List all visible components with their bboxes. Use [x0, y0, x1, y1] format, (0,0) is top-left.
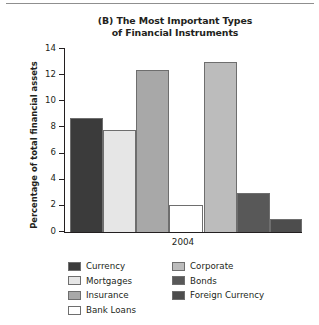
legend-label: Bonds — [190, 276, 217, 286]
bar-currency — [70, 118, 103, 232]
legend-swatch-icon — [172, 276, 185, 285]
chart-title-line1: (B) The Most Important Types — [98, 15, 252, 26]
y-tick-mark — [59, 126, 65, 127]
y-tick-mark — [59, 231, 65, 232]
y-axis-title: Percentage of total financial assets — [29, 55, 39, 235]
legend-item-bank-loans[interactable]: Bank Loans — [68, 303, 172, 318]
bar-corporate — [204, 62, 237, 232]
bar-bank-loans — [169, 205, 203, 232]
y-tick-10: 10 — [64, 100, 65, 101]
plot-area: 02468101214 — [64, 49, 302, 233]
y-tick-label: 14 — [45, 43, 56, 53]
y-tick-2: 2 — [64, 205, 65, 206]
bar-mortgages — [103, 130, 136, 232]
top-divider — [6, 3, 314, 4]
y-tick-mark — [59, 74, 65, 75]
y-tick-12: 12 — [64, 74, 65, 75]
y-tick-label: 4 — [51, 173, 56, 183]
chart-legend: CurrencyCorporateMortgagesBondsInsurance… — [68, 259, 300, 317]
y-tick-mark — [59, 179, 65, 180]
legend-label: Foreign Currency — [190, 290, 264, 300]
chart-figure: (B) The Most Important Types of Financia… — [0, 0, 319, 325]
y-tick-6: 6 — [64, 153, 65, 154]
chart-title-line2: of Financial Instruments — [44, 27, 306, 39]
y-tick-0: 0 — [64, 231, 65, 232]
legend-swatch-icon — [68, 262, 81, 271]
y-tick-label: 2 — [51, 199, 56, 209]
legend-swatch-icon — [68, 291, 81, 300]
y-tick-label: 0 — [51, 226, 56, 236]
legend-item-mortgages[interactable]: Mortgages — [68, 274, 172, 289]
legend-item-bonds[interactable]: Bonds — [172, 274, 300, 289]
legend-label: Mortgages — [86, 276, 132, 286]
bar-insurance — [136, 70, 169, 232]
legend-label: Corporate — [190, 261, 233, 271]
y-tick-label: 10 — [45, 95, 56, 105]
y-tick-mark — [59, 100, 65, 101]
legend-item-foreign-currency[interactable]: Foreign Currency — [172, 288, 300, 303]
legend-label: Bank Loans — [86, 305, 136, 315]
x-axis-label: 2004 — [64, 237, 302, 247]
bar-foreign-currency — [270, 219, 302, 232]
legend-item-insurance[interactable]: Insurance — [68, 288, 172, 303]
legend-item-currency[interactable]: Currency — [68, 259, 172, 274]
y-tick-mark — [59, 205, 65, 206]
x-axis-line — [64, 232, 302, 233]
y-tick-label: 6 — [51, 147, 56, 157]
legend-swatch-icon — [68, 306, 81, 315]
y-tick-4: 4 — [64, 179, 65, 180]
legend-swatch-icon — [68, 276, 81, 285]
legend-label: Insurance — [86, 290, 129, 300]
y-tick-label: 8 — [51, 121, 56, 131]
y-tick-8: 8 — [64, 126, 65, 127]
y-tick-mark — [59, 48, 65, 49]
legend-item-corporate[interactable]: Corporate — [172, 259, 300, 274]
legend-swatch-icon — [172, 291, 185, 300]
legend-swatch-icon — [172, 262, 185, 271]
y-tick-14: 14 — [64, 48, 65, 49]
bar-bonds — [237, 193, 270, 232]
y-tick-mark — [59, 153, 65, 154]
y-tick-label: 12 — [45, 69, 56, 79]
chart-title: (B) The Most Important Types of Financia… — [44, 15, 306, 39]
legend-label: Currency — [86, 261, 125, 271]
